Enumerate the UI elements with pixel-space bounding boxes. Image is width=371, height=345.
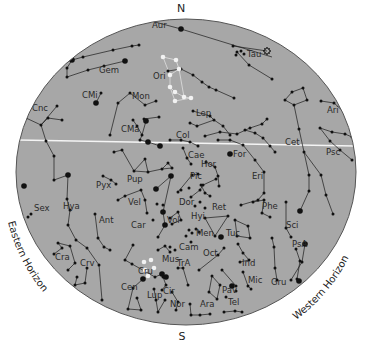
star [86, 247, 89, 250]
label-pup: Pup [127, 174, 143, 184]
star [261, 212, 264, 215]
label-eri: Eri [252, 171, 263, 181]
star [351, 159, 354, 162]
star [262, 137, 265, 140]
star [190, 163, 193, 166]
star [274, 151, 277, 154]
star [189, 303, 192, 306]
star [136, 297, 139, 300]
star [53, 179, 56, 182]
star [320, 174, 323, 177]
label-crv: Crv [80, 258, 94, 268]
label-ara: Ara [200, 299, 215, 309]
star [208, 86, 211, 89]
star [47, 117, 50, 120]
star [56, 105, 59, 108]
star [290, 279, 293, 282]
label-men: Men [196, 228, 214, 238]
star [144, 158, 147, 161]
orion-star [174, 58, 179, 63]
star [233, 97, 236, 100]
label-mic: Mic [248, 275, 263, 285]
label-psc: Psc [326, 147, 340, 157]
star [182, 147, 185, 150]
label-car: Car [131, 220, 146, 230]
star [308, 174, 311, 177]
star [227, 215, 230, 218]
star [115, 183, 118, 186]
star [257, 199, 260, 202]
star [167, 162, 170, 165]
star [201, 81, 204, 84]
star [94, 213, 97, 216]
star [157, 236, 160, 239]
bright-star [153, 186, 159, 192]
star [215, 178, 218, 181]
star [45, 140, 48, 143]
bright-star [297, 208, 303, 214]
star [200, 184, 203, 187]
star [303, 151, 306, 154]
star [234, 219, 237, 222]
star [199, 189, 202, 192]
star [247, 225, 250, 228]
star [204, 135, 207, 138]
label-cma: CMa [121, 124, 139, 134]
star [180, 219, 183, 222]
star [329, 140, 332, 143]
star [261, 123, 264, 126]
star [269, 145, 272, 148]
star [117, 102, 120, 105]
label-lep: Lep [196, 108, 211, 118]
star [222, 125, 225, 128]
star [232, 45, 235, 48]
crux-star [149, 258, 154, 263]
star [103, 246, 106, 249]
label-gem: Gem [99, 65, 119, 75]
star [82, 56, 85, 59]
bright-star [296, 278, 302, 284]
star [61, 119, 64, 122]
star [217, 175, 220, 178]
bright-star [122, 58, 128, 64]
orion-star [189, 96, 194, 101]
bright-star [163, 274, 169, 280]
orion-star [177, 67, 182, 72]
label-hyi: Hyi [191, 211, 205, 221]
star [131, 263, 134, 266]
star [237, 243, 240, 246]
orion-star [168, 73, 173, 78]
star [234, 310, 237, 313]
star [332, 213, 335, 216]
star [263, 192, 266, 195]
label-cam: Cam [179, 242, 198, 252]
star [325, 194, 328, 197]
label-sci: Sci [286, 220, 298, 230]
star [127, 308, 130, 311]
star [30, 213, 33, 216]
star [293, 104, 296, 107]
bright-star [168, 173, 174, 179]
star [199, 201, 202, 204]
star [209, 195, 212, 198]
star [84, 282, 87, 285]
star [236, 51, 239, 54]
label-mon: Mon [132, 91, 150, 101]
star [284, 99, 287, 102]
label-hya: Hya [63, 201, 80, 211]
star [27, 216, 30, 219]
star [132, 119, 135, 122]
star [57, 242, 60, 245]
star [208, 291, 211, 294]
star [204, 207, 207, 210]
star [132, 244, 135, 247]
star [109, 249, 112, 252]
label-cnc: Cnc [32, 103, 48, 113]
label-cru: Cru [138, 266, 153, 276]
star [61, 247, 64, 250]
star [243, 53, 246, 56]
orion-star [173, 90, 178, 95]
star [302, 87, 305, 90]
orion-star [168, 85, 173, 90]
star [53, 155, 56, 158]
